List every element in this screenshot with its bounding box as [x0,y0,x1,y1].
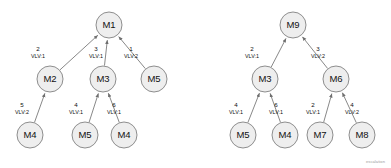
node-label: M5 [236,129,249,140]
tree-node-m5[interactable]: M5 [141,66,167,92]
node-label: M8 [355,129,368,140]
node-label: M4 [117,129,130,140]
edge-weight-label: 4 [234,101,238,108]
edge-weight-label: 3 [316,45,320,52]
node-label: M4 [23,129,36,140]
edge-vlv-label: VLV:1 [89,53,103,59]
node-label: M2 [43,73,56,84]
edge-weight-label: 2 [36,45,40,52]
edge-vlv-label: VLV:1 [31,53,45,59]
edge-vlv-label: VLV:1 [306,109,320,115]
tree-canvas: M1M2M3M5M4M5M4M9M3M6M5M4M7M8 2VLV:13VLV:… [0,0,391,168]
node-label: M3 [96,73,109,84]
tree-edge [248,93,260,122]
tree-node-m8[interactable]: M8 [349,122,375,148]
tree-node-m3[interactable]: M3 [90,66,116,92]
node-label: M3 [258,73,271,84]
corner-note: escalation [366,159,385,164]
tree-node-m7[interactable]: M7 [307,122,333,148]
edge-vlv-label: VLV:1 [245,53,259,59]
edge-vlv-label: VLV:1 [269,109,283,115]
edge-vlv-label: VLV:2 [15,109,29,115]
edge-weight-label: 5 [20,101,24,108]
edge-weight-label: 2 [311,101,315,108]
node-label: M4 [278,129,291,140]
edge-vlv-label: VLV:2 [311,53,325,59]
tree-node-m4[interactable]: M4 [111,122,137,148]
edge-weight-label: 3 [94,45,98,52]
tree-node-m5[interactable]: M5 [230,122,256,148]
tree-edge [89,93,98,122]
nodes-layer: M1M2M3M5M4M5M4M9M3M6M5M4M7M8 [17,12,375,148]
node-label: M9 [286,19,299,30]
node-label: M5 [147,73,160,84]
tree-edge [324,94,332,122]
tree-node-m1[interactable]: M1 [96,12,122,38]
tree-edge [35,93,45,122]
tree-node-m4[interactable]: M4 [272,122,298,148]
node-label: M7 [313,129,326,140]
edge-labels-layer: 2VLV:13VLV:11VLV:25VLV:24VLV:16VLV:12VLV… [15,45,359,115]
tree-node-m4[interactable]: M4 [17,122,43,148]
tree-node-m6[interactable]: M6 [323,66,349,92]
tree-node-m9[interactable]: M9 [280,12,306,38]
node-label: M5 [78,129,91,140]
tree-node-m3[interactable]: M3 [252,66,278,92]
tree-node-m5[interactable]: M5 [72,122,98,148]
edge-weight-label: 4 [350,101,354,108]
node-label: M6 [329,73,342,84]
node-label: M1 [102,19,115,30]
edge-weight-label: 4 [74,101,78,108]
edge-vlv-label: VLV:1 [229,109,243,115]
edge-weight-label: 1 [129,45,133,52]
edge-vlv-label: VLV:1 [107,109,121,115]
edge-vlv-label: VLV:2 [345,109,359,115]
edge-vlv-label: VLV:2 [124,53,138,59]
edge-weight-label: 6 [112,101,116,108]
edge-vlv-label: VLV:1 [69,109,83,115]
tree-edge [271,38,286,67]
tree-edge [104,40,107,65]
edge-weight-label: 2 [250,45,254,52]
edge-weight-label: 6 [274,101,278,108]
escalation-tree-diagram: M1M2M3M5M4M5M4M9M3M6M5M4M7M8 2VLV:13VLV:… [0,0,391,168]
tree-node-m2[interactable]: M2 [37,66,63,92]
